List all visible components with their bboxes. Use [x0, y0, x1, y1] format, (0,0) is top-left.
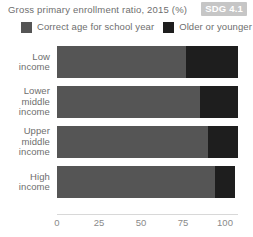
bar-row: Uppermiddleincome: [0, 126, 253, 158]
bar-segment-correct-age: [57, 166, 215, 198]
page-title: Gross primary enrollment ratio, 2015 (%): [8, 3, 187, 16]
x-axis-tick-label: 25: [94, 216, 105, 229]
bar-segment-older-younger: [186, 46, 238, 78]
legend-swatch-older-younger: [163, 22, 174, 33]
x-axis-ticks: 0255075100: [0, 216, 253, 232]
x-axis-line: [57, 214, 238, 215]
category-label: Highincome: [0, 172, 50, 193]
bar-segment-correct-age: [57, 86, 200, 118]
bar-segment-correct-age: [57, 46, 186, 78]
bar-row: Highincome: [0, 166, 253, 198]
chart-legend: Correct age for school year Older or you…: [21, 20, 252, 34]
legend-item-older-younger: Older or younger: [163, 21, 252, 33]
legend-swatch-correct-age: [21, 22, 32, 33]
gross-primary-enrollment-chart: Gross primary enrollment ratio, 2015 (%)…: [0, 0, 253, 237]
bar-segment-correct-age: [57, 126, 208, 158]
x-axis-tick-label: 75: [178, 216, 189, 229]
x-axis-tick-label: 50: [136, 216, 147, 229]
bar-segment-older-younger: [200, 86, 239, 118]
bar-row: Lowermiddleincome: [0, 86, 253, 118]
chart-header: Gross primary enrollment ratio, 2015 (%)…: [8, 3, 247, 19]
legend-label-correct-age: Correct age for school year: [37, 21, 154, 33]
x-axis-tick-label: 100: [217, 216, 233, 229]
bar-segment-older-younger: [215, 166, 235, 198]
category-label: Lowermiddleincome: [0, 86, 50, 118]
bar-row: Lowincome: [0, 46, 253, 78]
bar-track: [57, 46, 247, 78]
plot-area: LowincomeLowermiddleincomeUppermiddleinc…: [0, 44, 253, 214]
status-badge: SDG 4.1: [201, 2, 247, 16]
category-label: Lowincome: [0, 52, 50, 73]
x-axis-tick-label: 0: [54, 216, 59, 229]
bar-track: [57, 166, 247, 198]
bar-track: [57, 86, 247, 118]
category-label: Uppermiddleincome: [0, 126, 50, 158]
legend-item-correct-age: Correct age for school year: [21, 21, 154, 33]
bar-track: [57, 126, 247, 158]
bar-segment-older-younger: [208, 126, 238, 158]
legend-label-older-younger: Older or younger: [179, 21, 252, 33]
